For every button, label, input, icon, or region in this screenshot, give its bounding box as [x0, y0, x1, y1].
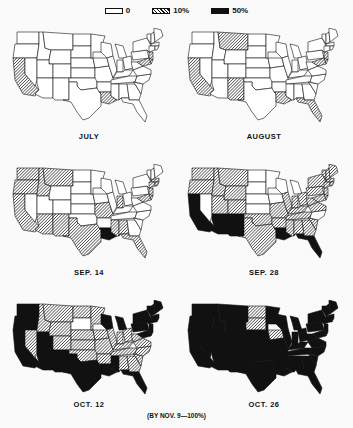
state-wa — [17, 32, 39, 44]
state-ar — [97, 82, 113, 92]
state-nd — [73, 306, 91, 318]
state-nm — [228, 214, 244, 236]
state-ne — [71, 58, 95, 68]
state-mt — [43, 304, 73, 322]
state-mi — [115, 44, 127, 58]
state-sd — [246, 182, 266, 194]
map-panel-4: OCT. 12 — [4, 296, 174, 426]
map-panel-0: JULY — [4, 24, 174, 154]
state-nd — [73, 170, 91, 182]
state-in — [117, 60, 123, 72]
state-nm — [228, 350, 244, 372]
state-wa — [192, 304, 214, 316]
state-ks — [71, 340, 95, 350]
state-ne — [71, 330, 95, 340]
map-caption: AUGUST — [179, 132, 349, 141]
state-co — [53, 64, 71, 78]
map-panel-3: SEP. 28 — [179, 160, 349, 290]
state-ct — [324, 182, 330, 188]
map-caption: JULY — [4, 132, 174, 141]
state-wa — [192, 32, 214, 44]
state-wy — [49, 186, 71, 200]
legend-label: 10% — [173, 6, 189, 15]
state-me — [154, 28, 163, 42]
legend: 0 10% 50% — [0, 6, 353, 15]
legend-item-0: 0 — [105, 6, 130, 15]
state-ar — [272, 354, 288, 364]
map-panel-5: OCT. 26 — [179, 296, 349, 426]
state-az — [35, 214, 53, 234]
state-ct — [149, 318, 155, 324]
state-ne — [246, 194, 270, 204]
state-ne — [246, 58, 270, 68]
state-ri — [330, 182, 334, 186]
state-wi — [276, 314, 288, 330]
state-ct — [149, 46, 155, 52]
state-nm — [53, 214, 69, 236]
state-me — [154, 164, 163, 178]
us-map — [184, 28, 344, 128]
state-ar — [97, 354, 113, 364]
state-wi — [101, 42, 113, 58]
state-or — [188, 44, 214, 58]
us-map — [9, 300, 169, 400]
state-in — [292, 60, 298, 72]
map-panel-1: AUGUST — [179, 24, 349, 154]
map-caption: SEP. 14 — [4, 268, 174, 277]
state-wy — [49, 322, 71, 336]
state-wa — [17, 168, 39, 180]
state-mt — [218, 168, 248, 186]
state-fl — [121, 234, 147, 258]
state-ks — [246, 340, 270, 350]
state-nd — [248, 34, 266, 46]
state-or — [188, 180, 214, 194]
state-fl — [296, 234, 322, 258]
state-az — [210, 350, 228, 370]
state-co — [53, 200, 71, 214]
state-wy — [49, 50, 71, 64]
state-ar — [97, 218, 113, 228]
state-ct — [324, 46, 330, 52]
state-wi — [101, 178, 113, 194]
state-wi — [276, 178, 288, 194]
state-in — [117, 196, 123, 208]
state-wi — [276, 42, 288, 58]
state-ks — [71, 68, 95, 78]
swatch-hatched-icon — [152, 8, 170, 14]
state-sd — [246, 318, 266, 330]
state-ar — [272, 218, 288, 228]
swatch-none-icon — [105, 8, 123, 14]
state-az — [35, 78, 53, 98]
state-mi — [290, 316, 302, 330]
state-ct — [149, 182, 155, 188]
state-mi — [290, 180, 302, 194]
state-nd — [73, 34, 91, 46]
legend-item-10: 10% — [152, 6, 189, 15]
state-sd — [71, 318, 91, 330]
state-az — [210, 78, 228, 98]
state-or — [13, 44, 39, 58]
state-ri — [155, 318, 159, 322]
state-in — [292, 332, 298, 344]
state-ri — [330, 46, 334, 50]
legend-label: 0 — [126, 6, 130, 15]
state-fl — [121, 98, 147, 122]
state-fl — [121, 370, 147, 394]
state-sd — [71, 46, 91, 58]
state-nm — [228, 78, 244, 100]
state-me — [329, 28, 338, 42]
state-co — [228, 64, 246, 78]
state-az — [35, 350, 53, 370]
state-ar — [272, 82, 288, 92]
state-ks — [246, 204, 270, 214]
state-me — [329, 164, 338, 178]
state-nd — [248, 170, 266, 182]
state-ne — [246, 330, 270, 340]
state-fl — [296, 98, 322, 122]
state-in — [117, 332, 123, 344]
state-me — [154, 300, 163, 314]
state-wy — [224, 186, 246, 200]
state-mi — [115, 180, 127, 194]
legend-item-50: 50% — [211, 6, 248, 15]
state-nm — [53, 350, 69, 372]
